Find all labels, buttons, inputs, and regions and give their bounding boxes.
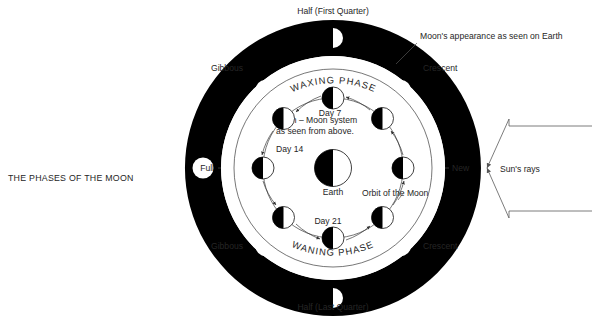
label-new: New — [452, 163, 470, 173]
inner-moon-day7 — [322, 87, 344, 109]
sun-ray-upper — [487, 119, 592, 168]
earth — [315, 150, 352, 187]
label-full: Full — [200, 163, 214, 173]
inner-moon-sw — [273, 207, 295, 229]
sun-ray-lower — [487, 168, 592, 218]
earth-label: Earth — [323, 187, 344, 197]
label-crescent-top-right: Crescent — [423, 63, 458, 73]
page-title: THE PHASES OF THE MOON — [8, 173, 134, 183]
day-7-label: Day 7 — [319, 108, 342, 118]
label-half-first-quarter: Half (First Quarter) — [297, 6, 369, 16]
inner-moon-day14 — [252, 157, 274, 179]
inner-moon-ne — [372, 108, 394, 130]
day-21-label: Day 21 — [314, 216, 341, 226]
day-14-label: Day 14 — [276, 144, 303, 154]
inner-moon-nw — [273, 108, 295, 130]
inner-moon-se — [372, 207, 394, 229]
suns-rays-label: Sun's rays — [500, 164, 540, 174]
moon-phases-diagram: THE PHASES OF THE MOON — [0, 0, 597, 320]
inner-moon-east — [392, 157, 414, 179]
label-gibbous-top-left: Gibbous — [211, 63, 243, 73]
orbit-of-the-moon-label: Orbit of the Moon — [362, 188, 429, 198]
label-half-last-quarter: Half (Last Quarter) — [297, 302, 368, 312]
inner-moon-day21 — [322, 227, 344, 249]
callout-label: Moon's appearance as seen on Earth — [420, 31, 563, 41]
label-gibbous-bottom-left: Gibbous — [211, 241, 243, 251]
label-crescent-bottom-right: Crescent — [423, 241, 458, 251]
